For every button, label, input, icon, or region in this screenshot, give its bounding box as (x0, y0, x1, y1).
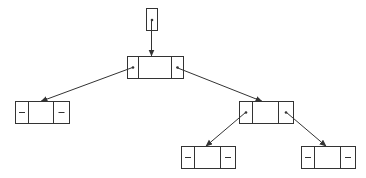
tree-node-right (240, 102, 294, 124)
pointer-dot-icon (151, 19, 154, 22)
edge-arrow-right-right (287, 113, 327, 147)
right-pointer-dot-icon (176, 66, 179, 69)
tree-diagram (0, 0, 366, 178)
tree-node-right-left (182, 147, 236, 169)
node-box (128, 57, 184, 79)
right-pointer-dot-icon (285, 111, 288, 114)
tree-node-left (16, 102, 70, 124)
left-pointer-dot-icon (132, 66, 135, 69)
left-pointer-dot-icon (245, 111, 248, 114)
tree-diagram-svg (0, 0, 366, 178)
nodes (16, 9, 356, 169)
edges (41, 21, 327, 147)
edge-arrow-root-right (177, 68, 263, 102)
tree-node-right-right (302, 147, 356, 169)
edge-arrow-root-left (41, 68, 133, 102)
tree-node-root (128, 57, 184, 79)
